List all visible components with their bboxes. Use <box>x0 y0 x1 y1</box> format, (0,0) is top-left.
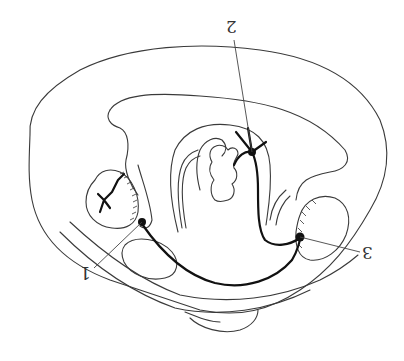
diagram-canvas: 1 2 3 <box>0 0 404 361</box>
central-left-lobe <box>197 138 226 190</box>
central-body-outer <box>171 124 271 232</box>
left-lower-oval <box>122 239 177 279</box>
inner-left-fold <box>108 110 138 195</box>
right-oval <box>296 196 349 260</box>
right-fold-a <box>270 190 290 225</box>
label-1: 1 <box>80 264 91 281</box>
anatomy-drawing <box>0 0 404 361</box>
nerve-pathway <box>142 152 300 286</box>
leader-line-2 <box>234 40 252 152</box>
bottom-lobe-inner <box>185 312 220 322</box>
label-2: 2 <box>226 18 237 35</box>
lower-contour-a <box>70 222 358 300</box>
left-oval-branch <box>98 174 124 212</box>
label-3: 3 <box>362 244 373 261</box>
inner-upper-contour <box>110 94 348 200</box>
